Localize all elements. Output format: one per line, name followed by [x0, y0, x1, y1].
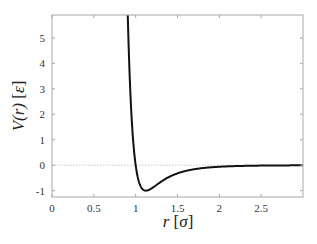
- x-tick-label: 1: [133, 202, 139, 214]
- tick-labels: 00.511.522.5-1012345: [36, 32, 269, 214]
- lennard-jones-chart: 00.511.522.5-1012345 r [σ] V(r) [ε]: [0, 0, 317, 244]
- x-tick-label: 0: [49, 202, 55, 214]
- y-tick-label: 0: [40, 159, 46, 171]
- y-axis-label: V(r) [ε]: [9, 81, 28, 132]
- y-tick-label: 4: [40, 57, 46, 69]
- x-tick-label: 2.5: [254, 202, 268, 214]
- y-tick-label: 2: [40, 108, 46, 120]
- x-axis-label: r [σ]: [163, 212, 194, 231]
- y-tick-label: 3: [40, 83, 46, 95]
- y-tick-label: 1: [40, 134, 46, 146]
- axes: [52, 15, 303, 197]
- plot-area: [52, 0, 303, 191]
- potential-curve: [127, 0, 303, 191]
- x-tick-label: 2: [217, 202, 223, 214]
- y-tick-label: 5: [40, 32, 46, 44]
- axes-box: [52, 15, 303, 197]
- y-tick-label: -1: [36, 185, 45, 197]
- x-tick-label: 0.5: [87, 202, 101, 214]
